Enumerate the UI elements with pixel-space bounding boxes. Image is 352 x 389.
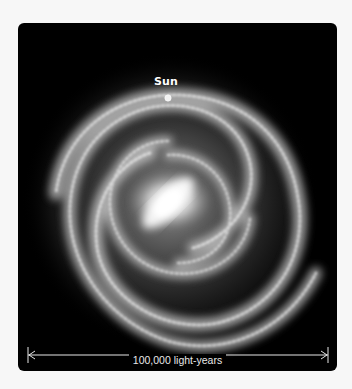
sun-marker xyxy=(165,95,171,101)
galaxy-panel: Sun 100,000 light-years xyxy=(18,23,337,371)
sun-label: Sun xyxy=(150,75,182,88)
